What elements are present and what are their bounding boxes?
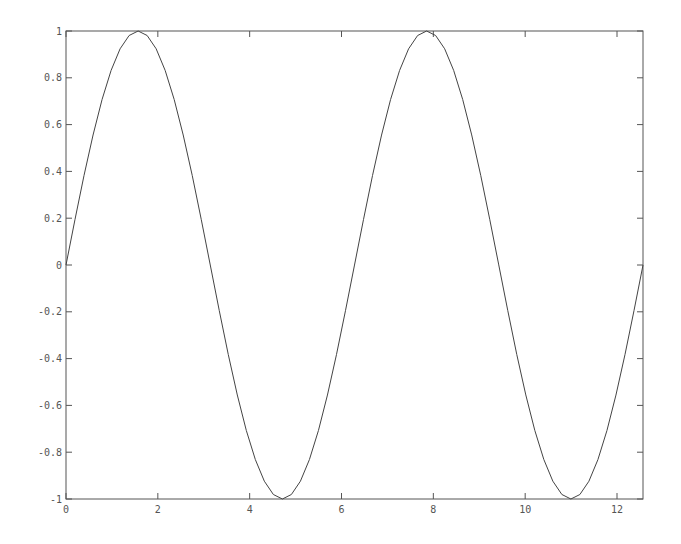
y-tick-label: -0.4 <box>38 353 62 364</box>
y-tick-label: 0 <box>56 260 62 271</box>
y-tick-label: 0.4 <box>44 166 62 177</box>
x-tick-label: 6 <box>338 504 344 515</box>
x-tick-label: 2 <box>155 504 161 515</box>
y-tick-label: 0.8 <box>44 72 62 83</box>
x-tick-label: 0 <box>63 504 69 515</box>
x-tick-label: 10 <box>519 504 531 515</box>
y-tick-label: -1 <box>50 494 62 505</box>
x-tick-label: 4 <box>247 504 253 515</box>
y-tick-label: 0.2 <box>44 213 62 224</box>
x-tick-label: 8 <box>430 504 436 515</box>
sine-chart: 024681012 10.80.60.40.20-0.2-0.4-0.6-0.8… <box>0 0 681 544</box>
x-tick-label: 12 <box>611 504 623 515</box>
y-tick-label: -0.2 <box>38 306 62 317</box>
y-tick-label: -0.6 <box>38 400 62 411</box>
y-tick-label: -0.8 <box>38 447 62 458</box>
y-tick-label: 0.6 <box>44 119 62 130</box>
y-tick-label: 1 <box>56 26 62 37</box>
